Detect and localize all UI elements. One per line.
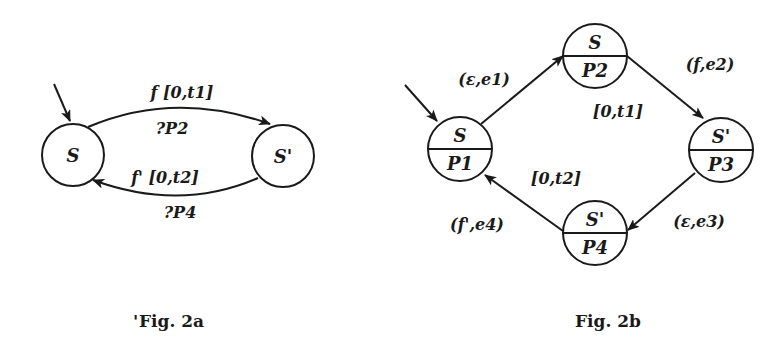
node-p1: S P1: [428, 117, 492, 181]
initial-arrow-2b: [405, 85, 437, 121]
edge-label-0-t2: [0,t2]: [531, 169, 581, 188]
edge-p1-to-p2: [481, 56, 563, 124]
node-p1-state: S: [454, 125, 467, 146]
node-p4-pred: P4: [581, 237, 608, 258]
diagram-canvas: S S' f [0,t1] ?P2 f' [0,t2] ?P4 ' Fig. 2…: [0, 0, 783, 347]
node-p2-pred: P2: [581, 60, 608, 81]
node-p4: S' P4: [563, 201, 627, 265]
edge-label-eps-e3: (ε,e3): [673, 212, 725, 231]
node-s-label: S: [67, 145, 80, 166]
fig-2b: S P1 S P2 S' P3 S' P4 (ε,e1) (f,e2) [0,t…: [405, 24, 753, 331]
node-p1-pred: P1: [446, 153, 473, 174]
fig-2a: S S' f [0,t1] ?P2 f' [0,t2] ?P4 ' Fig. 2…: [42, 83, 314, 331]
caption-fig-2a: Fig. 2a: [139, 311, 204, 331]
edge-label-eps-e1: (ε,e1): [458, 70, 510, 89]
edge-label-f-prime-e4: (f',e4): [450, 215, 504, 234]
caption-fig-2b: Fig. 2b: [575, 311, 641, 331]
node-p3-state: S': [712, 126, 731, 147]
node-s-prime-label: S': [274, 146, 293, 167]
node-p2-state: S: [589, 32, 602, 53]
node-p2: S P2: [563, 24, 627, 88]
edge-label-0-t1: [0,t1]: [593, 102, 643, 121]
node-p4-state: S': [586, 209, 605, 230]
node-p3-pred: P3: [707, 154, 734, 175]
caption-mark: ': [133, 311, 138, 331]
initial-arrow-2a: [54, 84, 70, 121]
edge-label-f-prime-0-t2: f' [0,t2]: [130, 168, 199, 187]
node-p3: S' P3: [689, 118, 753, 182]
edge-label-f-0-t1: f [0,t1]: [150, 83, 214, 102]
edge-label-f-e2: (f,e2): [686, 55, 735, 74]
edge-label-p2: ?P2: [156, 119, 189, 138]
edge-label-p4: ?P4: [164, 203, 197, 222]
